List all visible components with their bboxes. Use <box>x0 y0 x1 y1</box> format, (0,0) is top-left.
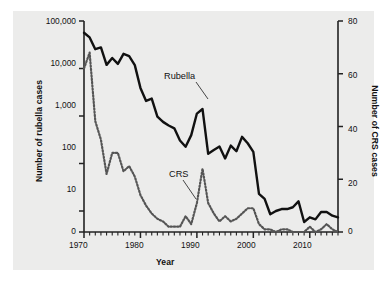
y-left-tick-10: 10 <box>14 184 76 194</box>
x-tick-2010: 2010 <box>293 240 312 250</box>
axis-lines <box>84 21 338 232</box>
tick-marks <box>79 21 343 238</box>
x-tick-1970: 1970 <box>69 240 88 250</box>
series-line-rubella <box>84 33 338 222</box>
y-left-tick-10000: 10,000 <box>14 58 76 68</box>
y-left-tick-1000: 1,000 <box>14 100 76 110</box>
y-right-tick-20: 20 <box>348 178 357 188</box>
data-series <box>84 33 338 232</box>
y-right-tick-80: 80 <box>348 16 357 26</box>
figure-canvas: Number of rubella cases Number of CRS ca… <box>0 0 386 281</box>
y-right-tick-40: 40 <box>348 124 357 134</box>
series-label-rubella: Rubella <box>164 71 195 81</box>
y-left-tick-100: 100 <box>14 142 76 152</box>
x-tick-2000: 2000 <box>237 240 256 250</box>
x-tick-1980: 1980 <box>125 240 144 250</box>
series-label-crs: CRS <box>169 169 188 179</box>
y-axis-right-title: Number of CRS cases <box>370 56 380 206</box>
x-tick-1990: 1990 <box>181 240 200 250</box>
y-right-tick-60: 60 <box>348 70 357 80</box>
y-left-tick-100000: 100,000 <box>14 16 76 26</box>
chart-plot-svg <box>0 0 386 281</box>
x-axis-title: Year <box>156 257 175 267</box>
y-left-tick-0: 0 <box>14 226 76 236</box>
y-right-tick-0: 0 <box>348 226 353 236</box>
